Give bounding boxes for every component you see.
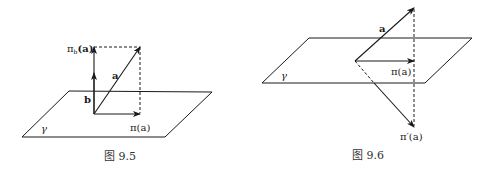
figure-9-6: a π(a) π′(a) γ 图 9.6 <box>262 8 472 162</box>
vector-a <box>355 8 414 61</box>
label-pi-prime-a: π′(a) <box>400 131 423 142</box>
caption-9-5: 图 9.5 <box>104 150 136 163</box>
label-vector-a: a <box>379 23 386 34</box>
figure-9-5: πb(a) a b π(a) γ 图 9.5 <box>22 43 212 163</box>
label-gamma: γ <box>281 70 287 81</box>
label-gamma: γ <box>41 123 47 134</box>
label-pi-a: π(a) <box>391 66 411 77</box>
label-vector-b: b <box>84 94 91 105</box>
dashed-under-plane <box>355 61 374 83</box>
diagram-canvas: πb(a) a b π(a) γ 图 9.5 a π(a) π′(a) γ 图 … <box>0 0 488 173</box>
caption-9-6: 图 9.6 <box>352 149 384 162</box>
label-pi-b: πb(a) <box>67 43 93 55</box>
vector-pi-prime-a <box>374 83 414 127</box>
label-pi-a: π(a) <box>130 122 150 133</box>
label-vector-a: a <box>112 70 119 81</box>
